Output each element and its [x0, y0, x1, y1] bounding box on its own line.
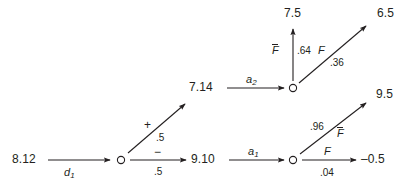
- chance-node-d1: [117, 156, 124, 163]
- node-value-910: 9.10: [191, 154, 215, 165]
- edge-prob-minus: .5: [154, 166, 162, 177]
- edge-prob-64: .64: [297, 45, 311, 56]
- edge-label-fbar-64: F: [272, 45, 279, 56]
- f-symbol-text: F: [272, 44, 279, 56]
- decision-tree-diagram: 8.12 9.10 7.14 7.5 6.5 9.5 –0.5 d1 + .5 …: [0, 0, 409, 191]
- edge-prob-36: .36: [330, 57, 344, 68]
- edge-prob-plus: .5: [156, 132, 164, 143]
- leaf-value-65: 6.5: [377, 8, 394, 19]
- f-bar-symbol: F: [337, 128, 344, 139]
- f-bar-symbol: F: [272, 45, 279, 56]
- chance-node-a2: [289, 84, 296, 91]
- leaf-value-neg05: –0.5: [361, 154, 385, 165]
- chance-node-a1: [289, 156, 296, 163]
- leaf-value-95: 9.5: [376, 89, 393, 100]
- edge-label-fbar-96: F: [337, 128, 344, 139]
- edge-label-minus: −: [154, 147, 161, 158]
- edge-label-d1: d1: [64, 167, 75, 181]
- edge-label-plus: +: [144, 120, 151, 131]
- leaf-value-75: 7.5: [284, 8, 301, 19]
- overbar: [337, 127, 343, 128]
- overbar: [272, 44, 278, 45]
- edge-label-a2-subscript: 2: [252, 78, 256, 87]
- f-symbol-text: F: [337, 127, 344, 139]
- node-value-root: 8.12: [12, 154, 36, 165]
- edge-label-a1: a1: [248, 146, 259, 160]
- edge-prob-04: .04: [320, 167, 334, 178]
- edge-label-f-36: F: [318, 45, 325, 56]
- edge-label-d1-subscript: 1: [70, 171, 74, 180]
- edge-prob-96: .96: [310, 121, 324, 132]
- edge-label-a1-subscript: 1: [254, 150, 258, 159]
- edge-label-f-04: F: [324, 146, 331, 157]
- edge-label-a2: a2: [246, 74, 257, 88]
- node-value-714: 7.14: [189, 82, 213, 93]
